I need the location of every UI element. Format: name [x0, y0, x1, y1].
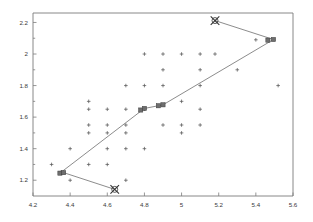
- plus-marker: [105, 163, 109, 167]
- plus-marker: [198, 123, 202, 127]
- y-tick-label: 1.2: [19, 176, 28, 183]
- plus-marker: [124, 178, 128, 182]
- plus-marker: [180, 123, 184, 127]
- square-markers-layer: [58, 37, 276, 175]
- plus-marker: [143, 84, 147, 88]
- plus-marker: [68, 147, 72, 151]
- y-axis-tick-labels: 1.21.41.61.822.2: [19, 19, 28, 184]
- plus-marker: [198, 68, 202, 72]
- square-marker: [161, 103, 165, 107]
- plus-marker: [143, 147, 147, 151]
- main-trajectory: [60, 21, 274, 174]
- x-tick-label: 5.6: [289, 201, 298, 208]
- trajectory-paths: [60, 21, 274, 190]
- y-tick-label: 1.8: [19, 82, 28, 89]
- plus-marker: [180, 100, 184, 104]
- x-tick-label: 4.6: [103, 201, 112, 208]
- square-marker: [62, 171, 66, 175]
- x-tick-label: 5.4: [252, 201, 261, 208]
- plus-marker: [198, 52, 202, 56]
- plus-marker: [124, 107, 128, 111]
- plus-marker: [105, 123, 109, 127]
- plus-marker: [87, 100, 91, 104]
- x-tick-label: 4.2: [29, 201, 38, 208]
- plus-marker: [180, 52, 184, 56]
- x-axis-ticks: [33, 193, 293, 197]
- y-tick-label: 2: [25, 50, 29, 57]
- x-outlier-marker: [211, 16, 220, 25]
- plus-marker: [235, 68, 239, 72]
- plus-markers-layer: [50, 38, 280, 182]
- x-tick-label: 4.8: [140, 201, 149, 208]
- y-tick-label: 1.6: [19, 113, 28, 120]
- plus-marker: [87, 107, 91, 111]
- plus-marker: [254, 38, 258, 42]
- plus-marker: [124, 84, 128, 88]
- x-axis-tick-labels: 4.24.44.64.855.25.45.6: [29, 201, 298, 208]
- plus-marker: [161, 52, 165, 56]
- plus-marker: [87, 123, 91, 127]
- plus-marker: [124, 147, 128, 151]
- plus-marker: [105, 131, 109, 135]
- y-tick-label: 1.4: [19, 145, 28, 152]
- plus-marker: [105, 107, 109, 111]
- x-tick-label: 5.2: [214, 201, 223, 208]
- square-marker: [142, 106, 146, 110]
- scatter-plot-figure: 4.24.44.64.855.25.45.6 1.21.41.61.822.2: [0, 0, 313, 222]
- square-marker: [156, 104, 160, 108]
- plus-marker: [143, 52, 147, 56]
- x-outlier-marker: [110, 185, 119, 194]
- plus-marker: [87, 131, 91, 135]
- plus-marker: [50, 163, 54, 167]
- plus-marker: [276, 84, 280, 88]
- y-tick-label: 2.2: [19, 19, 28, 26]
- plus-marker: [180, 131, 184, 135]
- plus-marker: [161, 123, 165, 127]
- plus-marker: [161, 68, 165, 72]
- square-marker: [271, 37, 275, 41]
- plus-marker: [161, 84, 165, 88]
- plus-marker: [198, 107, 202, 111]
- branch-trajectory: [64, 173, 115, 190]
- plus-marker: [68, 178, 72, 182]
- square-marker: [266, 38, 270, 42]
- plus-marker: [124, 131, 128, 135]
- x-tick-label: 5: [180, 201, 184, 208]
- plot-canvas: 4.24.44.64.855.25.45.6 1.21.41.61.822.2: [0, 0, 313, 222]
- plus-marker: [87, 163, 91, 167]
- plus-marker: [105, 147, 109, 151]
- plus-marker: [213, 52, 217, 56]
- x-tick-label: 4.4: [66, 201, 75, 208]
- plus-marker: [198, 84, 202, 88]
